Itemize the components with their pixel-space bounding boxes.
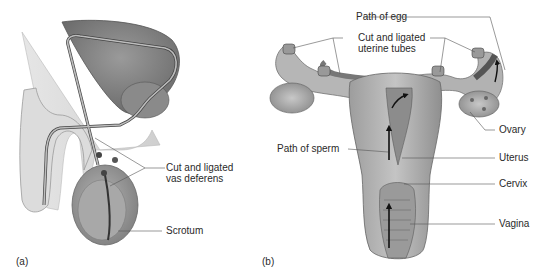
label-uterine-tubes: Cut and ligated uterine tubes (358, 32, 425, 54)
ligation-knot (432, 66, 444, 76)
label-vas-deferens-line2: vas deferens (166, 173, 233, 184)
follicle (482, 107, 486, 111)
leader-line-uterine-tubes (293, 38, 343, 48)
label-vagina: Vagina (499, 218, 529, 229)
ligation-knot (96, 152, 102, 158)
panel-tag-b: (b) (262, 256, 274, 267)
label-vas-deferens: Cut and ligated vas deferens (166, 162, 233, 184)
label-path-of-sperm: Path of sperm (277, 143, 339, 154)
ligation-knot (283, 44, 295, 54)
contraception-sterilization-figure: Cut and ligated vas deferens Scrotum (a)… (0, 0, 543, 278)
label-uterus: Uterus (499, 152, 528, 163)
left-ovary (270, 83, 314, 113)
label-ovary: Ovary (499, 124, 526, 135)
ligation-knot (101, 170, 107, 176)
label-path-of-egg: Path of egg (356, 11, 407, 22)
follicle (470, 98, 474, 102)
panel-tag-a: (a) (16, 256, 28, 267)
leader-line-uterine-tubes (333, 38, 340, 74)
label-cervix: Cervix (499, 178, 527, 189)
label-scrotum: Scrotum (166, 225, 203, 236)
right-ovary (459, 91, 499, 117)
label-vas-deferens-line1: Cut and ligated (166, 162, 233, 173)
ligation-knot (318, 66, 330, 76)
label-uterine-tubes-line1: Cut and ligated (358, 32, 425, 43)
leader-line-uterine-tubes (445, 38, 475, 52)
follicle (484, 96, 488, 100)
ligation-knot (472, 48, 484, 58)
label-uterine-tubes-line2: uterine tubes (358, 43, 425, 54)
male-anatomy-illustration (0, 0, 543, 278)
ligation-knot (112, 157, 118, 163)
